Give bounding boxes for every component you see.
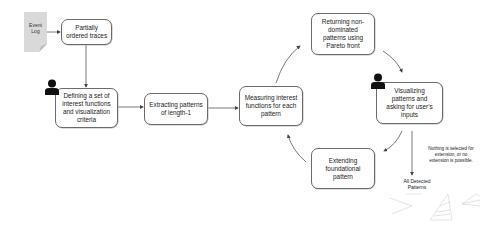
node-label: Extracting patterns of length-1	[149, 101, 202, 117]
node-label: Partially ordered traces	[66, 24, 107, 40]
measure-interest-functions-node: Measuring interest functions for each pa…	[239, 86, 303, 126]
pareto-front-node: Returning non- dominated patterns using …	[311, 13, 375, 55]
node-label: Visualizing patterns and asking for user…	[386, 87, 432, 119]
user-icon	[45, 79, 59, 95]
node-label: Defining a set of interest functions and…	[62, 92, 110, 124]
extract-length1-patterns-node: Extracting patterns of length-1	[144, 93, 208, 125]
all-detected-patterns-label: All Detected Patterns	[398, 178, 436, 190]
node-label: Extending foundational pattern	[326, 157, 361, 181]
extend-foundational-pattern-node: Extending foundational pattern	[311, 148, 375, 189]
define-interest-functions-node: Defining a set of interest functions and…	[55, 88, 118, 128]
node-label: Returning non- dominated patterns using …	[322, 18, 364, 50]
event-log-label: Event Log	[24, 22, 47, 34]
user-icon	[371, 73, 385, 89]
pattern-graphs-icon	[388, 192, 486, 226]
exit-condition-note: Nothing is selected for extension, or no…	[416, 146, 486, 164]
node-label: Measuring interest functions for each pa…	[245, 94, 298, 118]
partially-ordered-traces-node: Partially ordered traces	[61, 19, 112, 45]
visualize-patterns-node: Visualizing patterns and asking for user…	[376, 82, 443, 124]
